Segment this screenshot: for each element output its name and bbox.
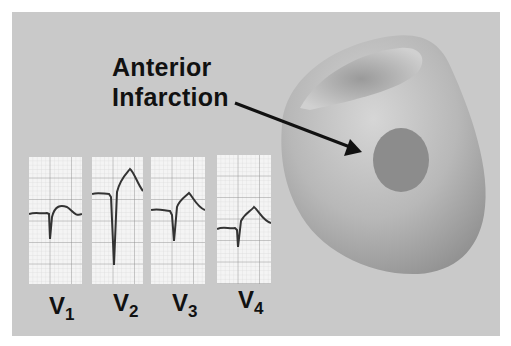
- lead-label-v2: V2: [113, 289, 138, 322]
- infarct-zone: [373, 128, 429, 192]
- ecg-strip-v4: [217, 155, 271, 284]
- lead-label-v3: V3: [172, 289, 197, 322]
- ecg-strip-v3: [151, 157, 205, 284]
- title-line-2: Infarction: [112, 82, 229, 112]
- infarction-title: Anterior Infarction: [112, 52, 229, 112]
- lead-label-v4: V4: [238, 286, 263, 319]
- lead-label-v1: V1: [49, 292, 74, 325]
- ecg-strip-v2: [92, 157, 143, 284]
- ecg-strip-v1: [29, 157, 82, 284]
- title-line-1: Anterior: [112, 52, 229, 82]
